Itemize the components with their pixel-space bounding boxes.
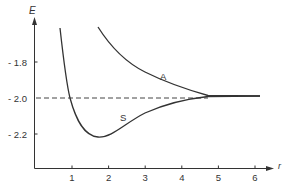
y-tick-label: - 2.0 bbox=[8, 93, 27, 104]
x-tick-label: 2 bbox=[106, 172, 111, 183]
y-tick-label: - 2.2 bbox=[8, 129, 27, 140]
energy-curve-chart: E r - 1.8 - 2.0 - 2.2 1 2 3 4 5 6 A S bbox=[0, 0, 287, 184]
x-tick-label: 1 bbox=[69, 172, 74, 183]
x-axis-label: r bbox=[278, 161, 282, 171]
x-tick-label: 4 bbox=[179, 172, 184, 183]
curve-a bbox=[98, 27, 260, 96]
y-axis-arrow-icon bbox=[32, 17, 37, 25]
curve-s bbox=[60, 28, 260, 137]
curve-s-label: S bbox=[120, 112, 126, 123]
x-tick-label: 5 bbox=[216, 172, 221, 183]
x-tick-label: 6 bbox=[252, 172, 257, 183]
y-tick-label: - 1.8 bbox=[8, 57, 27, 68]
x-axis-arrow-icon bbox=[266, 166, 274, 171]
curve-a-label: A bbox=[160, 71, 167, 82]
x-tick-label: 3 bbox=[143, 172, 148, 183]
y-axis-label: E bbox=[29, 5, 36, 16]
